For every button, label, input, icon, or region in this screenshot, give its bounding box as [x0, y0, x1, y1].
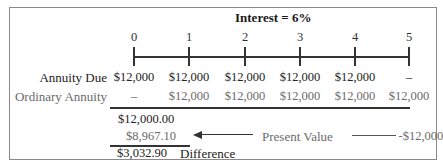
timeline-tick-5	[408, 47, 410, 66]
annuity-due-cell-5: –	[406, 70, 412, 85]
ordinary-annuity-cell-1: $12,000	[169, 89, 210, 104]
annuity-due-cell-3: $12,000	[280, 70, 321, 85]
annuity-due-cell-1: $12,000	[169, 70, 210, 85]
ordinary-annuity-cell-5: $12,000	[389, 89, 430, 104]
timeline-tick-4	[354, 47, 356, 66]
timeline-axis	[134, 56, 410, 58]
calc-line-2-present-value: $8,967.10	[126, 129, 176, 144]
tick-label-2: 2	[242, 30, 248, 45]
ordinary-annuity-label: Ordinary Annuity	[15, 89, 107, 105]
ordinary-annuity-cell-4: $12,000	[335, 89, 376, 104]
present-value-label: Present Value	[262, 129, 333, 145]
annuity-due-cell-4: $12,000	[335, 70, 376, 85]
ordinary-annuity-cell-0: –	[131, 89, 137, 104]
timeline-tick-0	[133, 47, 135, 66]
tick-label-0: 0	[131, 30, 137, 45]
ordinary-annuity-cell-3: $12,000	[280, 89, 321, 104]
timeline-tick-2	[244, 47, 246, 66]
difference-label: Difference	[180, 146, 235, 162]
annuity-due-cell-0: $12,000	[114, 70, 155, 85]
ordinary-annuity-cell-2: $12,000	[225, 89, 266, 104]
rows-separator	[110, 107, 410, 109]
calc-line-1: $12,000.00	[118, 112, 174, 127]
timeline-tick-3	[299, 47, 301, 66]
tick-label-3: 3	[297, 30, 303, 45]
annuity-due-cell-2: $12,000	[225, 70, 266, 85]
tick-label-4: 4	[352, 30, 358, 45]
arrow-shaft	[201, 134, 253, 135]
annuity-due-label: Annuity Due	[39, 70, 107, 86]
present-value-connector	[352, 135, 396, 136]
interest-title: Interest = 6%	[235, 10, 312, 26]
tick-label-5: 5	[406, 30, 412, 45]
timeline-tick-1	[188, 47, 190, 66]
tick-label-1: 1	[186, 30, 192, 45]
present-value-source: -$12,000	[399, 129, 443, 144]
difference-value: $3,032.90	[117, 146, 167, 161]
